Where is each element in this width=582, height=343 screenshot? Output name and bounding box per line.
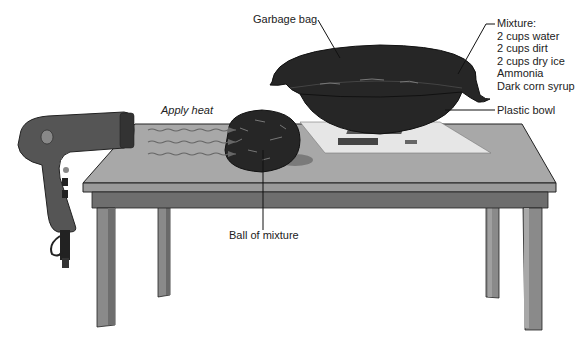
mixture-ingredient: 2 cups dirt: [497, 42, 575, 55]
mixture-ingredient: Ammonia: [497, 67, 575, 80]
mixture-ingredient: 2 cups water: [497, 30, 575, 43]
label-ball-of-mixture: Ball of mixture: [229, 229, 299, 242]
label-garbage-bag: Garbage bag: [253, 13, 317, 26]
plastic-bowl-with-garbage-bag: [270, 45, 490, 134]
label-apply-heat: Apply heat: [161, 104, 213, 117]
experiment-diagram: [0, 0, 582, 343]
mixture-list: Mixture: 2 cups water 2 cups dirt 2 cups…: [497, 17, 575, 92]
table-back-legs: [158, 203, 499, 298]
label-plastic-bowl: Plastic bowl: [497, 104, 555, 117]
mixture-ingredient: 2 cups dry ice: [497, 55, 575, 68]
mixture-ingredient: Dark corn syrup: [497, 80, 575, 93]
mixture-title: Mixture:: [497, 17, 575, 30]
